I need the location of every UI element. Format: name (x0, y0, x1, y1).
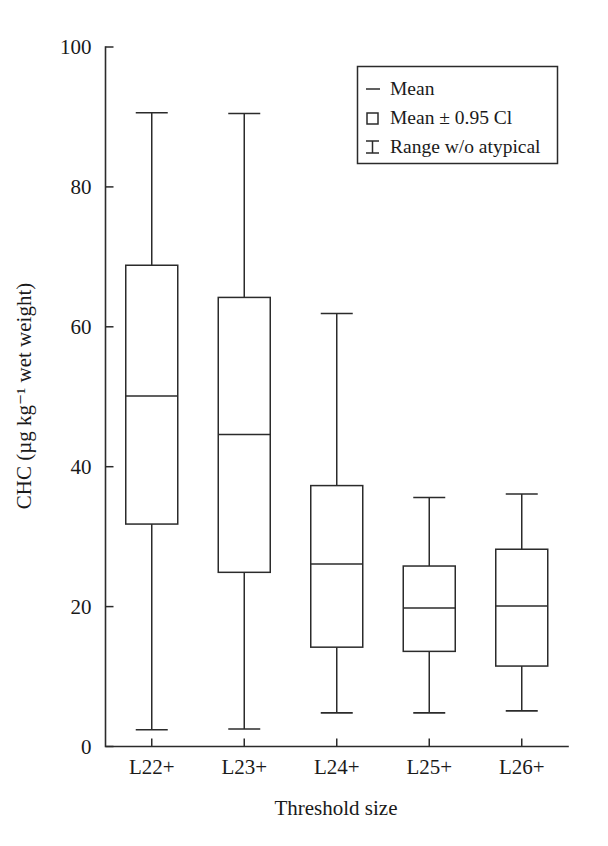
ci-box (311, 486, 363, 648)
x-tick-label: L24+ (314, 755, 360, 779)
y-axis-ticks (106, 47, 114, 747)
x-axis-tick-labels: L22+L23+L24+L25+L26+ (129, 755, 545, 779)
boxplot-item (126, 113, 178, 730)
y-tick-label: 0 (81, 735, 92, 759)
boxplot-figure: 020406080100 L22+L23+L24+L25+L26+ CHC (µ… (0, 0, 608, 846)
boxplot-item (496, 494, 548, 711)
x-tick-label: L23+ (221, 755, 267, 779)
y-tick-label: 80 (71, 175, 92, 199)
x-tick-label: L22+ (129, 755, 175, 779)
legend-label-range: Range w/o atypical (390, 136, 541, 157)
x-tick-label: L25+ (406, 755, 452, 779)
x-axis-title: Threshold size (274, 796, 397, 820)
x-axis-ticks (152, 739, 522, 747)
y-tick-label: 20 (71, 595, 92, 619)
legend-label-ci: Mean ± 0.95 Cl (390, 107, 513, 128)
y-tick-label: 60 (71, 315, 92, 339)
y-tick-label: 100 (60, 35, 92, 59)
legend-item-range: Range w/o atypical (366, 136, 541, 157)
boxplot-item (218, 113, 270, 729)
boxplot-item (403, 497, 455, 712)
legend-label-mean: Mean (390, 78, 435, 99)
boxplot-svg: 020406080100 L22+L23+L24+L25+L26+ CHC (µ… (0, 0, 608, 846)
ci-box (496, 549, 548, 666)
y-axis-title: CHC (µg kg⁻¹ wet weight) (12, 283, 36, 510)
box-series (126, 113, 548, 730)
x-tick-label: L26+ (499, 755, 545, 779)
y-tick-label: 40 (71, 455, 92, 479)
legend: Mean Mean ± 0.95 Cl Range w/o atypical (358, 67, 558, 164)
boxplot-item (311, 314, 363, 713)
y-axis-tick-labels: 020406080100 (60, 35, 92, 759)
ci-box (126, 265, 178, 524)
